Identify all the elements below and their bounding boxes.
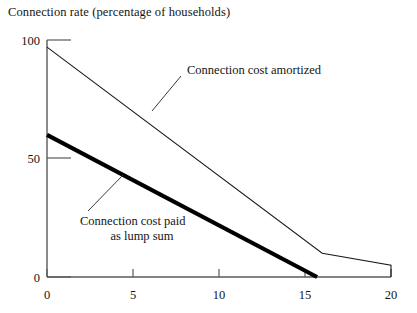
x-tick-label-0: 0 <box>44 288 50 302</box>
annotation-label-lump-sum-line1: Connection cost paid <box>80 214 186 228</box>
annotation-leader-amortized <box>152 76 181 111</box>
chart-figure: Connection rate (percentage of household… <box>0 0 417 313</box>
x-tick-label-10: 10 <box>213 288 226 302</box>
x-tick-label-5: 5 <box>130 288 136 302</box>
y-tick-label-0: 0 <box>34 271 40 285</box>
series-line-connection-cost-lump-sum <box>47 135 317 277</box>
annotation-label-amortized: Connection cost amortized <box>187 63 322 77</box>
annotation-leader-lump-sum <box>88 175 123 211</box>
y-tick-label-50: 50 <box>28 152 41 166</box>
x-axis-ticks <box>47 269 391 277</box>
x-tick-label-15: 15 <box>299 288 312 302</box>
line-chart-plot: 100 50 0 0 5 10 15 20 Connection cost am… <box>0 0 417 313</box>
y-tick-label-100: 100 <box>21 34 40 48</box>
y-axis-ticks <box>47 40 71 277</box>
x-tick-label-20: 20 <box>385 288 398 302</box>
annotation-label-lump-sum-line2: as lump sum <box>110 229 173 243</box>
